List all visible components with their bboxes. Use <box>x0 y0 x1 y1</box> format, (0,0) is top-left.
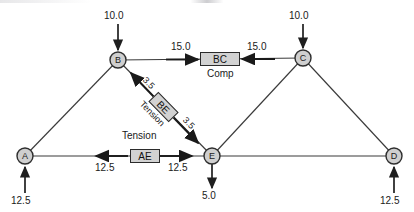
member-force-AE-left: 12.5 <box>95 163 114 173</box>
member-box-BC[interactable]: BC <box>200 52 240 66</box>
load-value-C: 10.0 <box>289 11 308 21</box>
member-state-AE: Tension <box>122 131 156 141</box>
reaction-value-D: 12.5 <box>380 196 399 206</box>
load-value-B: 10.0 <box>104 11 123 21</box>
member-AB <box>25 60 118 156</box>
member-force-BC-right: 15.0 <box>247 42 266 52</box>
truss-canvas <box>0 0 414 212</box>
load-arrows <box>25 24 394 193</box>
load-value-E: 5.0 <box>202 191 216 201</box>
node-label-A: A <box>17 148 33 164</box>
member-force-AE-right: 12.5 <box>168 163 187 173</box>
node-label-E: E <box>204 148 220 164</box>
member-CD <box>303 58 394 156</box>
node-label-D: D <box>386 148 402 164</box>
member-force-BC-left: 15.0 <box>171 42 190 52</box>
truss-diagram: A B C E D 10.0 10.0 5.0 12.5 12.5 BC Com… <box>0 0 414 212</box>
node-label-B: B <box>110 52 126 68</box>
member-state-BC: Comp <box>207 69 234 79</box>
node-label-C: C <box>295 50 311 66</box>
reaction-value-A: 12.5 <box>11 196 30 206</box>
member-box-AE[interactable]: AE <box>130 149 160 163</box>
